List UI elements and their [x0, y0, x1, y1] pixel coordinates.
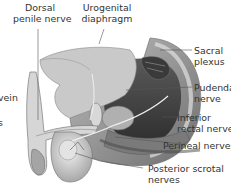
label-sacral-plexus: Sacral plexus [194, 45, 225, 67]
label-line: Perineal nerves [163, 140, 231, 151]
label-line: Pudendal [194, 82, 231, 93]
label-dorsal-penile-nerve: Dorsal penile nerve [13, 2, 67, 24]
label-line: Sacral [194, 45, 225, 56]
label-line: Urogenital [80, 2, 134, 13]
label-line: Dorsal [13, 2, 67, 13]
label-inferior-rectal-nerves: Inferior rectal nerves [177, 112, 231, 134]
label-line: nerve [194, 93, 231, 104]
label-line: Posterior scrotal [148, 163, 224, 174]
label-s-partial: s [0, 117, 3, 128]
label-line: plexus [194, 56, 225, 67]
label-posterior-scrotal-nerves: Posterior scrotal nerves [148, 163, 224, 185]
label-line: rectal nerves [177, 123, 231, 134]
label-line: penile nerve [13, 13, 67, 24]
label-urogenital-diaphragm: Urogenital diaphragm [80, 2, 134, 24]
label-line: Inferior [177, 112, 231, 123]
label-pudendal-nerve: Pudendal nerve [194, 82, 231, 104]
label-vein-partial: vein [0, 92, 18, 103]
label-perineal-nerves: Perineal nerves [163, 140, 231, 151]
label-line: diaphragm [80, 13, 134, 24]
label-line: nerves [148, 174, 224, 185]
